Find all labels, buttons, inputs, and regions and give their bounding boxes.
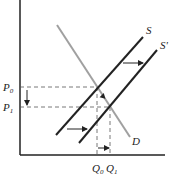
quantity-q1-label: Q1 — [106, 162, 117, 176]
price-p1-label: P1 — [2, 101, 13, 115]
supply-curve — [56, 37, 143, 135]
quantity-q0-label: Q0 — [92, 162, 104, 176]
demand-label: D — [131, 135, 140, 147]
supply-new-label: S' — [160, 39, 169, 51]
supply-demand-diagram: S S' D P0 P1 Q0 Q1 — [0, 0, 178, 180]
price-p0-label: P0 — [2, 81, 14, 95]
supply-label: S — [146, 24, 152, 36]
